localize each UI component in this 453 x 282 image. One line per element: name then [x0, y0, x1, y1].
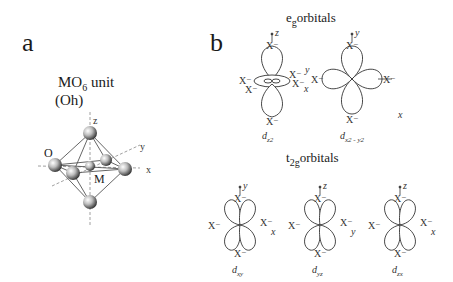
orbital-diagrams [0, 0, 453, 282]
dxy-caption: dxy [232, 264, 243, 278]
dx2y2-orbital [322, 46, 382, 114]
caption-sub: z2 [267, 136, 273, 144]
ligand-dx2y2-right: X⁻ [383, 74, 396, 85]
caption-sub: yz [317, 270, 323, 278]
ligand-dyz-bottom: X⁻ [314, 248, 327, 259]
dzx-axis-right: x [431, 226, 435, 237]
ligand-dzx-left: X⁻ [368, 220, 381, 231]
caption-sub: zx [397, 270, 403, 278]
dxy-axis-up: y [243, 180, 247, 191]
ligand-dxy-left: X⁻ [208, 220, 221, 231]
caption-sub: x2 - y2 [345, 136, 364, 144]
ligand-dx2y2-left: X⁻ [311, 74, 324, 85]
dxy-axis-right: x [271, 226, 275, 237]
dyz-axis-right: y [351, 226, 355, 237]
t2g-title-rest: orbitals [300, 150, 339, 165]
ligand-dz2-right: X⁻ [292, 78, 305, 89]
dyz-orbital [305, 200, 336, 250]
ligand-dzx-bottom: X⁻ [394, 248, 407, 259]
ligand-dxy-bottom: X⁻ [234, 248, 247, 259]
dyz-caption: dyz [312, 264, 323, 278]
ligand-dx2y2-top: X⁻ [346, 40, 359, 51]
dzx-caption: dzx [392, 264, 403, 278]
dzx-axis-up: z [403, 180, 407, 191]
ligand-dz2-frontleft: X⁻ [245, 84, 258, 95]
ligand-dyz-top: X⁻ [314, 193, 327, 204]
dz2-axis-z: z [275, 27, 279, 38]
ligand-dxy-top: X⁻ [234, 193, 247, 204]
ligand-dzx-top: X⁻ [394, 193, 407, 204]
dxy-orbital [225, 200, 256, 250]
caption-sub: xy [237, 270, 243, 278]
dz2-orbital [254, 46, 290, 117]
ligand-dyz-left: X⁻ [288, 220, 301, 231]
dyz-axis-up: z [323, 180, 327, 191]
t2g-title-sub: 2g [290, 157, 300, 168]
dz2-axis-x: x [304, 83, 308, 94]
dzx-orbital [385, 200, 416, 250]
stray-x-label: x [398, 109, 402, 120]
dz2-caption: dz2 [262, 130, 273, 144]
dz2-axis-y: y [305, 64, 309, 75]
ligand-dx2y2-bottom: X⁻ [346, 114, 359, 125]
ligand-dz2-bottom: X⁻ [266, 116, 279, 127]
t2g-orbitals-title: t2gorbitals [286, 150, 339, 168]
dx2y2-caption: dx2 - y2 [340, 130, 364, 144]
dx2y2-axis-y: y [355, 27, 359, 38]
ligand-dz2-top: X⁻ [266, 40, 279, 51]
